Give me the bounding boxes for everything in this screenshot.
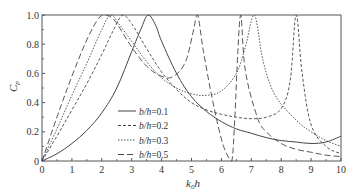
- series-line-b-h-0-5: [42, 15, 341, 161]
- legend-label: b/h=0.5: [139, 150, 169, 160]
- y-axis-label: Cp: [7, 81, 21, 92]
- x-tick-label: 1: [69, 164, 74, 175]
- legend-label: b/h=0.2: [139, 121, 169, 131]
- y-tick-label: 0.6: [27, 68, 40, 79]
- series-line-b-h-0-3: [42, 15, 341, 161]
- x-axis-label: k0h: [186, 177, 200, 191]
- series-line-b-h-0-1: [42, 15, 341, 161]
- x-tick-label: 4: [159, 164, 164, 175]
- x-tick-label: 2: [99, 164, 104, 175]
- y-tick-label: 0.2: [27, 126, 40, 137]
- legend-label: b/h=0.1: [139, 107, 169, 117]
- y-tick-label: 0.8: [27, 39, 40, 50]
- x-tick-label: 10: [336, 164, 346, 175]
- legend: b/h=0.1b/h=0.2b/h=0.3b/h=0.5: [118, 107, 169, 161]
- legend-label: b/h=0.3: [139, 136, 169, 146]
- y-tick-label: 0: [34, 156, 39, 167]
- x-tick-label: 0: [40, 164, 45, 175]
- x-tick-label: 5: [189, 164, 194, 175]
- x-tick-label: 7: [249, 164, 254, 175]
- plot-series: [42, 15, 341, 161]
- x-tick-label: 3: [129, 164, 134, 175]
- plot-frame: [42, 15, 341, 161]
- chart-canvas: 012345678910 00.20.40.60.81.0 k0h Cp b/h…: [0, 0, 355, 194]
- series-line-b-h-0-2: [42, 15, 341, 161]
- y-tick-label: 0.4: [27, 97, 40, 108]
- y-tick-label: 1.0: [27, 10, 40, 21]
- x-tick-label: 8: [279, 164, 284, 175]
- x-tick-label: 6: [219, 164, 224, 175]
- x-tick-label: 9: [309, 164, 314, 175]
